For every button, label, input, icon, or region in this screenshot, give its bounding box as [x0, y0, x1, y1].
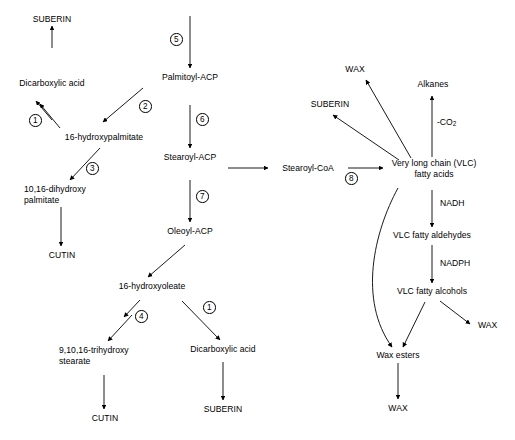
node-vlc-fatty-alcohols: VLC fatty alcohols — [397, 286, 467, 297]
node-suberin-top-left: SUBERIN — [33, 14, 72, 25]
pathway-diagram: SUBERIN Dicarboxylic acid 16-hydroxypalm… — [0, 0, 515, 440]
node-9-10-16-trihydroxystearate-line2: stearate — [59, 356, 90, 367]
enzyme-step-2: 2 — [139, 100, 152, 113]
node-wax-bottom: WAX — [388, 403, 407, 414]
node-dicarboxylic-acid-left: Dicarboxylic acid — [19, 78, 84, 89]
arrow-vlc-fatty-acids-to-suberin — [333, 115, 399, 160]
enzyme-step-1-bottom: 1 — [203, 301, 216, 314]
label-co2-release: -CO2 — [437, 117, 456, 129]
node-cutin-left: CUTIN — [49, 250, 76, 261]
arrow-vlc-fatty-acids-to-wax-esters-curved — [373, 188, 398, 347]
pathway-arrows-layer — [0, 0, 515, 440]
arrow-palmitoyl-to-hydroxypalmitate — [103, 88, 143, 122]
label-co2-prefix: -CO — [437, 117, 453, 127]
label-nadph: NADPH — [440, 258, 470, 268]
node-wax-esters: Wax esters — [376, 350, 419, 361]
node-16-hydroxypalmitate: 16-hydroxypalmitate — [65, 132, 143, 143]
node-oleoyl-acp: Oleoyl-ACP — [167, 226, 212, 237]
arrow-hydroxypalmitate-to-dicarboxylic — [40, 104, 60, 128]
node-suberin-right: SUBERIN — [311, 99, 350, 110]
node-vlc-fatty-acids-line2: fatty acids — [414, 169, 453, 180]
arrow-hydroxyoleate-to-trihydroxystearate-second — [108, 315, 132, 341]
node-cutin-bottom: CUTIN — [92, 413, 119, 424]
arrow-vlc-fatty-acids-to-wax-top — [366, 80, 411, 158]
enzyme-step-3: 3 — [86, 162, 99, 175]
arrow-alcohols-to-wax-right — [440, 301, 470, 324]
node-wax-right: WAX — [478, 320, 497, 331]
arrow-alcohols-to-wax-esters — [403, 302, 425, 347]
node-alkanes: Alkanes — [418, 79, 449, 90]
node-suberin-bottom: SUBERIN — [204, 404, 243, 415]
node-wax-top-right: WAX — [345, 64, 364, 75]
node-palmitoyl-acp: Palmitoyl-ACP — [162, 72, 218, 83]
enzyme-step-8: 8 — [345, 172, 358, 185]
node-dicarboxylic-acid-bottom: Dicarboxylic acid — [190, 344, 255, 355]
enzyme-step-1-left: 1 — [29, 114, 42, 127]
node-stearoyl-acp: Stearoyl-ACP — [164, 152, 217, 163]
node-vlc-fatty-acids-line1: Very long chain (VLC) — [392, 158, 477, 169]
node-stearoyl-coa: Stearoyl-CoA — [282, 163, 334, 174]
enzyme-step-7: 7 — [196, 190, 209, 203]
node-10-16-dihydroxypalmitate-line1: 10,16-dihydroxy — [24, 184, 86, 195]
node-16-hydroxyoleate: 16-hydroxyoleate — [119, 281, 186, 292]
enzyme-step-4: 4 — [135, 310, 148, 323]
arrow-oleoyl-to-hydroxyoleate — [148, 245, 185, 277]
enzyme-step-5: 5 — [170, 33, 183, 46]
enzyme-step-6: 6 — [196, 113, 209, 126]
node-vlc-fatty-aldehydes: VLC fatty aldehydes — [393, 230, 471, 241]
label-co2-subscript: 2 — [453, 120, 457, 127]
node-9-10-16-trihydroxystearate-line1: 9,10,16-trihydroxy — [59, 345, 129, 356]
label-nadh: NADH — [440, 198, 464, 208]
node-10-16-dihydroxypalmitate-line2: palmitate — [24, 195, 59, 206]
